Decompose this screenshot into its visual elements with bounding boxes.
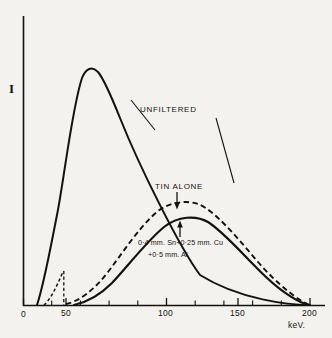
curve-label-composite-filter-line1: 0·4 mm. Sn+0·25 mm. Cu (138, 239, 223, 246)
x-axis-title: keV. (288, 321, 305, 330)
arrow-composite-head (177, 221, 183, 228)
x-tick-label-50: 50 (61, 309, 71, 318)
plot-area (0, 0, 332, 338)
curve-label-composite-filter-line2: +0·5 mm. Al (148, 251, 188, 258)
x-tick-label-0: 0 (21, 310, 26, 319)
curve-label-tin-alone: TIN ALONE (155, 183, 203, 191)
x-tick-label-150: 150 (230, 309, 245, 318)
curve-characteristic-spike (44, 271, 64, 305)
y-axis-title: I (9, 82, 14, 95)
arrow-tin-alone-head (174, 203, 180, 210)
x-tick-label-200: 200 (302, 309, 317, 318)
x-tick-label-100: 100 (158, 309, 173, 318)
xray-spectrum-figure: I keV. 0 50 100 150 200 UNFILTERED TIN A… (0, 0, 332, 338)
leader-line-unfiltered-lower (216, 118, 234, 183)
curve-label-unfiltered: UNFILTERED (140, 106, 197, 114)
